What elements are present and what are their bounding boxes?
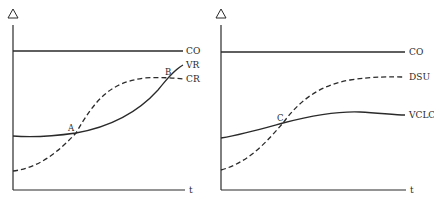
delta-triangle-icon — [8, 9, 18, 18]
diagram-canvas: t CO VR CR A B t CO DSU VCLC C — [0, 0, 434, 201]
right-panel: t CO DSU VCLC C — [216, 9, 434, 195]
right-dsu-label: DSU — [409, 72, 430, 82]
left-t-label: t — [189, 185, 193, 195]
left-point-a: A — [67, 123, 75, 133]
left-cr-curve — [13, 78, 183, 171]
delta-triangle-icon — [216, 9, 226, 18]
right-dsu-curve — [221, 77, 405, 170]
left-cr-label: CR — [186, 74, 200, 84]
right-t-label: t — [410, 185, 414, 195]
left-vr-label: VR — [185, 60, 199, 70]
left-panel: t CO VR CR A B — [8, 9, 200, 195]
right-vclc-label: VCLC — [408, 110, 434, 120]
right-vclc-curve — [221, 112, 405, 138]
left-co-label: CO — [186, 46, 200, 56]
right-point-c: C — [277, 113, 284, 123]
left-point-b: B — [165, 67, 171, 77]
right-co-label: CO — [409, 47, 423, 57]
